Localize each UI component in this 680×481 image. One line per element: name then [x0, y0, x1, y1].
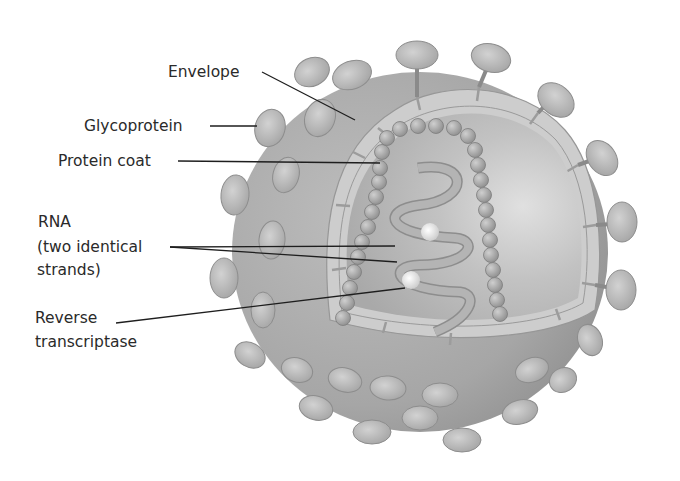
- glycoprotein-spike: [606, 270, 636, 310]
- protein-coat-bead: [447, 121, 462, 136]
- protein-coat-bead: [343, 281, 358, 296]
- protein-coat-bead: [411, 119, 426, 134]
- protein-coat-bead: [429, 119, 444, 134]
- protein-coat-bead: [486, 263, 501, 278]
- protein-coat-bead: [479, 203, 494, 218]
- protein-coat-bead: [372, 175, 387, 190]
- glycoprotein-spike: [443, 428, 481, 452]
- glycoprotein-spike: [210, 258, 238, 298]
- hiv-virus-diagram: Envelope Glycoprotein Protein coat RNA (…: [0, 0, 680, 481]
- glycoprotein-spike: [353, 420, 391, 444]
- label-rna-detail: (two identical: [37, 238, 142, 256]
- glycoprotein-spike: [251, 292, 275, 328]
- glycoprotein-spike: [290, 52, 334, 93]
- label-reverse: Reverse: [35, 309, 97, 327]
- protein-coat-bead: [477, 188, 492, 203]
- glycoprotein-spike: [422, 383, 458, 407]
- reverse-transcriptase-molecule: [421, 223, 439, 241]
- reverse-transcriptase-molecule: [402, 271, 420, 289]
- protein-coat-bead: [393, 122, 408, 137]
- glycoprotein-spike: [396, 41, 438, 69]
- protein-coat-bead: [461, 129, 476, 144]
- protein-coat-bead: [493, 307, 508, 322]
- labels: Envelope Glycoprotein Protein coat RNA (…: [35, 63, 240, 351]
- protein-coat-bead: [380, 131, 395, 146]
- protein-coat-bead: [365, 205, 380, 220]
- glycoprotein-spike: [402, 406, 438, 430]
- label-rna: RNA: [38, 213, 71, 231]
- protein-coat-bead: [336, 311, 351, 326]
- glycoprotein-spike: [468, 39, 514, 76]
- protein-coat-bead: [375, 145, 390, 160]
- label-glycoprotein: Glycoprotein: [84, 117, 183, 135]
- label-protein-coat: Protein coat: [58, 152, 151, 170]
- protein-coat-bead: [471, 158, 486, 173]
- protein-coat-bead: [474, 173, 489, 188]
- protein-coat-bead: [481, 218, 496, 233]
- protein-coat-bead: [347, 265, 362, 280]
- protein-coat-bead: [488, 278, 503, 293]
- glycoprotein-spike: [607, 202, 637, 242]
- protein-coat-bead: [484, 248, 499, 263]
- label-transcriptase: transcriptase: [35, 333, 137, 351]
- protein-coat-bead: [490, 293, 505, 308]
- protein-coat-bead: [351, 250, 366, 265]
- label-envelope: Envelope: [168, 63, 240, 81]
- protein-coat-bead: [483, 233, 498, 248]
- label-rna-strands: strands): [37, 261, 101, 279]
- protein-coat-bead: [340, 296, 355, 311]
- protein-coat-bead: [369, 190, 384, 205]
- protein-coat-bead: [468, 143, 483, 158]
- protein-coat-bead: [355, 235, 370, 250]
- protein-coat-bead: [361, 220, 376, 235]
